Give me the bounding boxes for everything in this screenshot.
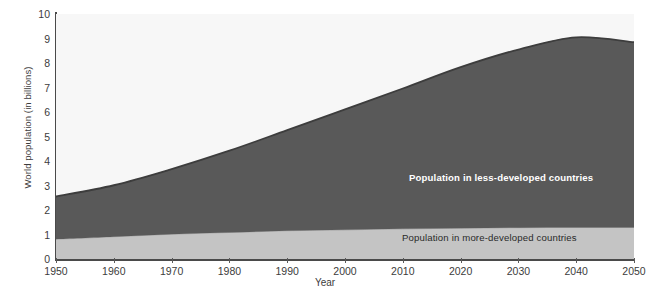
series-label-less-developed: Population in less-developed countries xyxy=(409,172,593,183)
x-tick-mark xyxy=(56,258,57,263)
y-tick-label: 5 xyxy=(44,132,50,142)
y-tick-label: 6 xyxy=(44,107,50,117)
x-tick-mark xyxy=(518,258,519,263)
x-tick-mark xyxy=(172,258,173,263)
series-label-more-developed: Population in more-developed countries xyxy=(402,232,577,243)
y-tick-label: 9 xyxy=(44,34,50,44)
x-tick-mark xyxy=(287,258,288,263)
y-tick-label: 10 xyxy=(38,9,50,19)
x-tick-mark xyxy=(634,258,635,263)
x-tick-mark xyxy=(345,258,346,263)
area-series-less-developed xyxy=(56,37,634,239)
y-tick-label: 4 xyxy=(44,156,50,166)
x-tick-label: 2000 xyxy=(333,265,356,277)
x-tick-label: 2040 xyxy=(565,265,588,277)
y-tick-label: 7 xyxy=(44,83,50,93)
x-tick-mark xyxy=(461,258,462,263)
x-tick-label: 1990 xyxy=(276,265,299,277)
x-tick-label: 2020 xyxy=(449,265,472,277)
x-tick-label: 1950 xyxy=(44,265,67,277)
x-tick-mark xyxy=(229,258,230,263)
x-tick-label: 2010 xyxy=(391,265,414,277)
y-tick-label: 2 xyxy=(44,205,50,215)
x-tick-label: 1970 xyxy=(160,265,183,277)
y-tick-label: 1 xyxy=(44,230,50,240)
plot-area xyxy=(56,14,634,259)
stacked-area-series xyxy=(56,14,634,259)
x-tick-label: 1960 xyxy=(102,265,125,277)
y-tick-label: 3 xyxy=(44,181,50,191)
y-tick-label: 8 xyxy=(44,58,50,68)
y-axis-tick-labels: 012345678910 xyxy=(18,0,50,295)
x-tick-label: 2050 xyxy=(622,265,645,277)
x-tick-label: 1980 xyxy=(218,265,241,277)
figure-caption xyxy=(4,285,434,295)
x-tick-mark xyxy=(403,258,404,263)
x-tick-mark xyxy=(576,258,577,263)
x-tick-label: 2030 xyxy=(507,265,530,277)
x-tick-mark xyxy=(114,258,115,263)
